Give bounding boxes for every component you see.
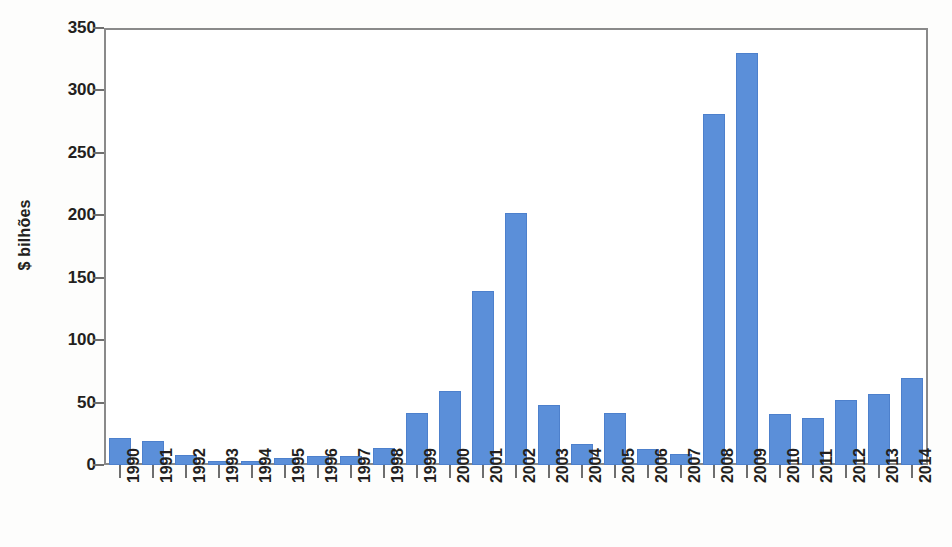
y-tick-mark (93, 464, 104, 466)
x-tick-mark (680, 465, 682, 478)
x-tick-mark (284, 465, 286, 478)
x-tick-label: 2008 (705, 483, 723, 543)
x-tick-label: 2000 (441, 483, 459, 543)
x-tick-label: 1996 (309, 483, 327, 543)
x-tick-label: 2012 (837, 483, 855, 543)
x-tick-label-text: 1991 (158, 448, 176, 483)
x-tick-label: 2006 (639, 483, 657, 543)
x-tick-mark (779, 465, 781, 478)
x-tick-label-text: 2010 (785, 448, 803, 483)
x-tick-mark (614, 465, 616, 478)
x-tick-label: 2002 (507, 483, 525, 543)
x-tick-label: 1994 (243, 483, 261, 543)
x-tick-mark (383, 465, 385, 478)
x-tick-label-text: 2009 (752, 448, 770, 483)
y-tick-mark (93, 27, 104, 29)
x-tick-label-text: 1995 (290, 448, 308, 483)
x-tick-mark (251, 465, 253, 478)
x-tick-mark (449, 465, 451, 478)
x-tick-mark (647, 465, 649, 478)
x-tick-mark (812, 465, 814, 478)
x-tick-label: 2005 (606, 483, 624, 543)
y-tick-label: 250 (68, 143, 96, 163)
y-tick-mark (93, 89, 104, 91)
x-tick-mark (911, 465, 913, 478)
y-tick-mark (93, 402, 104, 404)
x-tick-label: 1993 (210, 483, 228, 543)
x-tick-label-text: 2006 (653, 448, 671, 483)
x-tick-mark (152, 465, 154, 478)
x-tick-mark (581, 465, 583, 478)
x-tick-label: 2003 (540, 483, 558, 543)
x-tick-label: 2014 (903, 483, 921, 543)
y-tick-mark (93, 277, 104, 279)
x-tick-label-text: 1993 (224, 448, 242, 483)
x-tick-label-text: 2008 (719, 448, 737, 483)
x-tick-mark (185, 465, 187, 478)
x-axis: 1990199119921993199419951996199719981999… (104, 465, 928, 547)
x-tick-label: 1990 (111, 483, 129, 543)
y-axis-tick-labels: 050100150200250300350 (44, 0, 96, 547)
x-tick-mark (218, 465, 220, 478)
x-tick-label: 1995 (276, 483, 294, 543)
x-tick-mark (350, 465, 352, 478)
x-tick-label-text: 2001 (488, 448, 506, 483)
x-tick-mark (482, 465, 484, 478)
x-tick-mark (515, 465, 517, 478)
y-tick-label: 100 (68, 330, 96, 350)
x-tick-mark (548, 465, 550, 478)
x-tick-label: 1999 (408, 483, 426, 543)
bar-2002 (505, 213, 527, 465)
x-tick-label-text: 2007 (686, 448, 704, 483)
x-tick-label-text: 2012 (851, 448, 869, 483)
x-tick-label: 2001 (474, 483, 492, 543)
x-tick-label-text: 1997 (356, 448, 374, 483)
x-tick-label-text: 1999 (422, 448, 440, 483)
x-tick-label: 1992 (177, 483, 195, 543)
x-tick-label-text: 2002 (521, 448, 539, 483)
x-tick-label-text: 2014 (917, 448, 935, 483)
bar-2008 (703, 114, 725, 465)
y-axis-title: $ bilhões (8, 0, 42, 470)
x-tick-mark (416, 465, 418, 478)
x-tick-label: 2007 (672, 483, 690, 543)
x-tick-mark (845, 465, 847, 478)
y-tick-mark (93, 339, 104, 341)
x-tick-label: 2013 (870, 483, 888, 543)
x-tick-label: 2011 (804, 483, 822, 543)
x-tick-label: 1991 (144, 483, 162, 543)
y-tick-mark (93, 214, 104, 216)
x-tick-mark (713, 465, 715, 478)
y-tick-mark (93, 152, 104, 154)
x-tick-label-text: 1998 (389, 448, 407, 483)
x-tick-label-text: 1994 (257, 448, 275, 483)
x-tick-mark (119, 465, 121, 478)
x-tick-mark (317, 465, 319, 478)
x-tick-label: 2010 (771, 483, 789, 543)
x-tick-label-text: 1992 (191, 448, 209, 483)
x-tick-label-text: 2005 (620, 448, 638, 483)
x-tick-label-text: 2000 (455, 448, 473, 483)
x-tick-mark (878, 465, 880, 478)
x-tick-label-text: 2011 (818, 449, 836, 483)
x-tick-label-text: 1996 (323, 448, 341, 483)
x-tick-mark (746, 465, 748, 478)
x-tick-label-text: 2013 (884, 448, 902, 483)
y-tick-label: 200 (68, 205, 96, 225)
bar-2001 (472, 291, 494, 465)
bars-layer (104, 28, 928, 465)
x-tick-label-text: 2004 (587, 448, 605, 483)
bar-chart: $ bilhões 050100150200250300350 19901991… (0, 0, 952, 547)
y-axis-title-text: $ bilhões (16, 199, 34, 270)
y-tick-label: 300 (68, 80, 96, 100)
x-tick-label-text: 2003 (554, 448, 572, 483)
x-tick-label: 2009 (738, 483, 756, 543)
y-tick-label: 150 (68, 268, 96, 288)
x-tick-label-text: 1990 (125, 448, 143, 483)
x-tick-label: 1997 (342, 483, 360, 543)
bar-2009 (736, 53, 758, 465)
y-tick-label: 350 (68, 18, 96, 38)
x-tick-label: 1998 (375, 483, 393, 543)
x-tick-label: 2004 (573, 483, 591, 543)
